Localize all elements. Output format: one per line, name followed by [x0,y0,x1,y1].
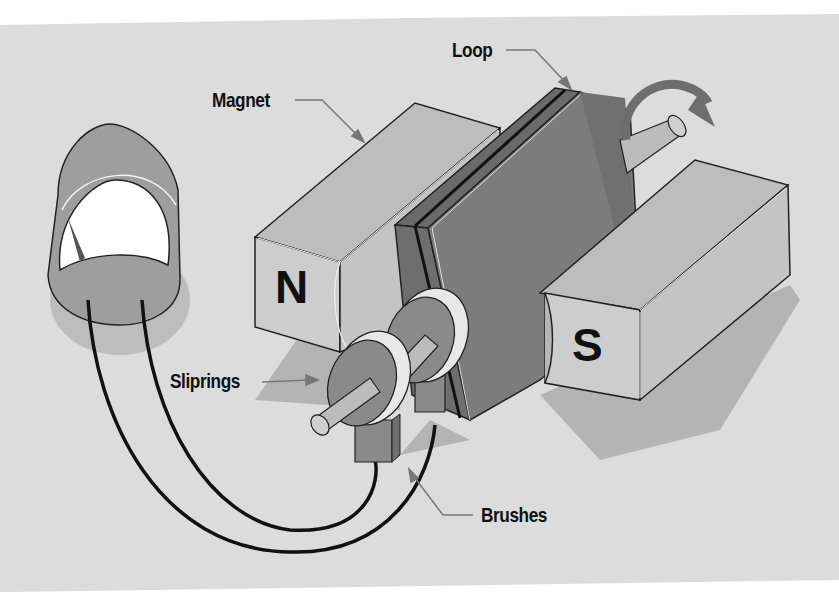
loop-label: Loop [452,38,492,62]
brushes-label: Brushes [481,503,547,527]
south-pole-letter: S [572,318,603,372]
generator-diagram: Magnet Loop Sliprings Brushes N S [0,0,839,592]
magnet-label: Magnet [212,88,270,112]
north-pole-letter: N [275,260,308,314]
meter [48,124,180,325]
sliprings-label: Sliprings [170,369,240,393]
diagram-canvas [0,0,839,592]
